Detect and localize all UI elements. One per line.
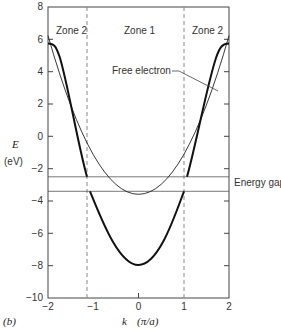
- band-upper-left-branch: [48, 43, 87, 176]
- svg-text:6: 6: [37, 34, 43, 45]
- energy-gap-lines: [48, 177, 229, 192]
- svg-text:−10: −10: [26, 292, 43, 303]
- x-axis-label: k: [122, 315, 128, 327]
- svg-text:4: 4: [37, 66, 43, 77]
- y-tick-labels: 8 6 4 2 0 −2 −4 −6 −8 −10: [26, 1, 43, 303]
- free-electron-label: Free electron: [112, 65, 171, 76]
- zone-boundaries: [87, 7, 184, 298]
- svg-text:−6: −6: [32, 228, 44, 239]
- band-upper-right-branch: [187, 43, 229, 176]
- svg-text:−4: −4: [32, 195, 44, 206]
- band-lower-branch: [90, 191, 184, 265]
- svg-text:−2: −2: [32, 163, 44, 174]
- panel-label: (b): [3, 315, 16, 328]
- svg-text:1: 1: [181, 301, 187, 312]
- svg-text:8: 8: [37, 1, 43, 12]
- band-structure-chart: 8 6 4 2 0 −2 −4 −6 −8 −10 −2 −1 0 1 2 Zo…: [0, 0, 281, 329]
- svg-text:0: 0: [37, 131, 43, 142]
- y-ticks: [48, 39, 229, 298]
- svg-text:−8: −8: [32, 260, 44, 271]
- svg-text:2: 2: [226, 301, 232, 312]
- y-axis-units: (eV): [4, 156, 23, 167]
- svg-text:−2: −2: [42, 301, 54, 312]
- svg-text:0: 0: [136, 301, 142, 312]
- energy-gap-label: Energy gap: [234, 177, 281, 188]
- plot-frame: [48, 7, 229, 298]
- zone-label-right: Zone 2: [192, 25, 224, 36]
- x-axis-units: (π/a): [137, 315, 159, 328]
- zone-label-center: Zone 1: [124, 25, 156, 36]
- svg-text:−1: −1: [87, 301, 99, 312]
- zone-label-left: Zone 2: [56, 25, 88, 36]
- svg-text:2: 2: [37, 98, 43, 109]
- x-tick-labels: −2 −1 0 1 2: [42, 301, 232, 312]
- y-axis-label: E: [11, 138, 19, 150]
